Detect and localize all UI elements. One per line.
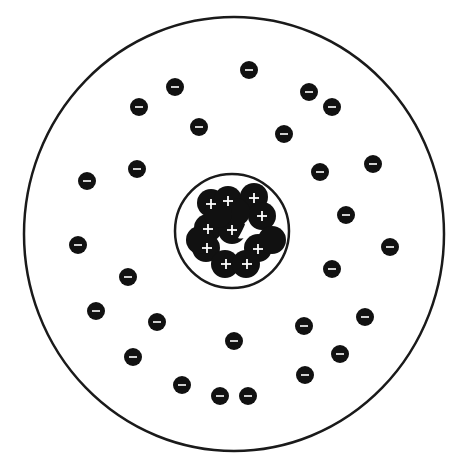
electron — [311, 163, 329, 181]
electron — [128, 160, 146, 178]
electron — [124, 348, 142, 366]
electron — [239, 387, 257, 405]
electron — [211, 387, 229, 405]
electron — [87, 302, 105, 320]
electron — [69, 236, 87, 254]
electron — [331, 345, 349, 363]
electron — [148, 313, 166, 331]
proton — [186, 226, 214, 254]
electron — [300, 83, 318, 101]
electron — [275, 125, 293, 143]
electron — [337, 206, 355, 224]
electron — [296, 366, 314, 384]
electron — [381, 238, 399, 256]
electron — [240, 61, 258, 79]
electron — [190, 118, 208, 136]
electron — [323, 260, 341, 278]
electron — [119, 268, 137, 286]
atom-diagram-canvas — [0, 0, 459, 474]
electron — [78, 172, 96, 190]
electron — [323, 98, 341, 116]
electron — [295, 317, 313, 335]
electron — [356, 308, 374, 326]
electron — [173, 376, 191, 394]
electron — [225, 332, 243, 350]
electron — [166, 78, 184, 96]
electron — [130, 98, 148, 116]
electron — [364, 155, 382, 173]
